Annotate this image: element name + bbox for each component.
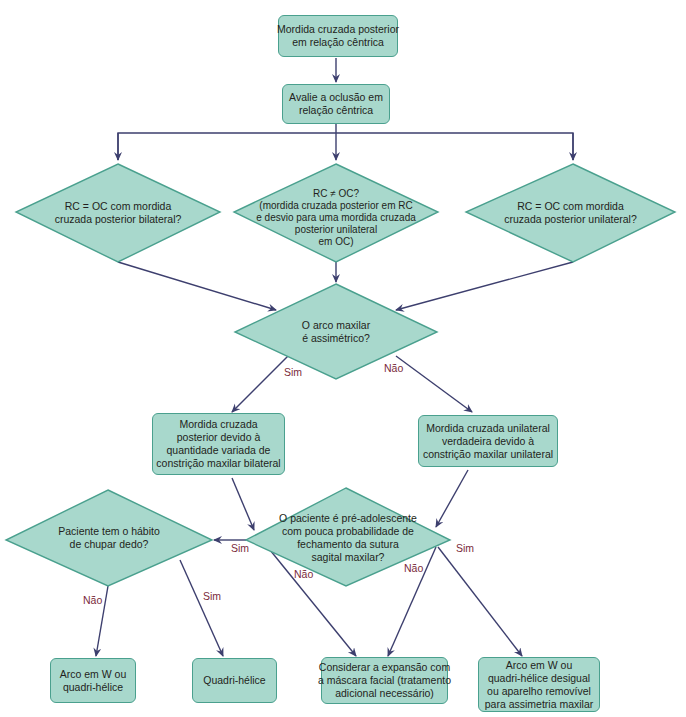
w-arch-node: Arco em W ouquadri-hélice bbox=[50, 658, 136, 703]
node-text: quadri-hélice bbox=[60, 681, 127, 694]
node-text: quantidade variada de bbox=[156, 444, 280, 457]
node-text: em relação cêntrica bbox=[277, 36, 399, 49]
unilateral-constriction-node: Mordida cruzada unilateralverdadeira dev… bbox=[418, 415, 558, 467]
edge-label-thumb-yes: Sim bbox=[203, 590, 221, 602]
quad-helix-node: Quadri-hélice bbox=[192, 658, 277, 703]
shift-question-diamond bbox=[234, 164, 438, 262]
node-text: verdadeira devido à bbox=[423, 435, 553, 448]
node-text: Mordida cruzada posterior bbox=[277, 23, 399, 36]
node-text: Arco em W ou bbox=[60, 668, 127, 681]
node-text: Mordida cruzada bbox=[156, 418, 280, 431]
edge-label-preado-yes-left: Sim bbox=[231, 542, 249, 554]
start-node: Mordida cruzada posteriorem relação cênt… bbox=[278, 15, 398, 57]
node-text: posterior devido à bbox=[156, 431, 280, 444]
unilateral-question-diamond bbox=[466, 164, 675, 262]
asymmetry-appliance-node: Arco em W ouquadri-hélice desigualou apa… bbox=[478, 657, 600, 712]
node-text: ou aparelho removível bbox=[485, 685, 594, 698]
node-text: constrição maxilar unilateral bbox=[423, 448, 553, 461]
thumb-question-diamond bbox=[6, 490, 212, 586]
node-text: adicional necessário) bbox=[318, 687, 451, 700]
edge-label-thumb-no: Não bbox=[83, 594, 102, 606]
edge-label-asym-yes: Sim bbox=[284, 366, 302, 378]
edge-label-asym-no: Não bbox=[384, 362, 403, 374]
node-text: a máscara facial (tratamento bbox=[318, 674, 451, 687]
node-text: quadri-hélice desigual bbox=[485, 672, 594, 685]
node-text: relação cêntrica bbox=[289, 104, 383, 117]
node-text: Mordida cruzada unilateral bbox=[423, 422, 553, 435]
node-text: para assimetria maxilar bbox=[485, 698, 594, 711]
node-text: Quadri-hélice bbox=[203, 674, 265, 687]
node-text: Considerar a expansão com bbox=[318, 661, 451, 674]
bilateral-question-diamond bbox=[16, 164, 220, 262]
node-text: Avalie a oclusão em bbox=[289, 91, 383, 104]
edge-label-preado-no-left: Não bbox=[294, 568, 313, 580]
bilateral-constriction-node: Mordida cruzadaposterior devido àquantid… bbox=[152, 413, 285, 475]
node-text: Arco em W ou bbox=[485, 659, 594, 672]
edge-label-preado-no-right: Não bbox=[404, 562, 423, 574]
edge-label-preado-yes-right: Sim bbox=[456, 542, 474, 554]
evaluate-node: Avalie a oclusão emrelação cêntrica bbox=[282, 84, 390, 124]
node-text: constrição maxilar bilateral bbox=[156, 457, 280, 470]
face-mask-node: Considerar a expansão coma máscara facia… bbox=[321, 657, 448, 704]
